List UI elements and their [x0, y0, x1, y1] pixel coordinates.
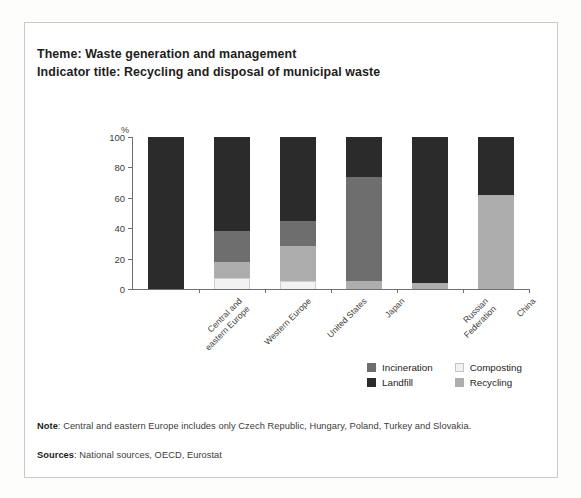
x-axis-tick-mark — [397, 289, 398, 293]
legend-swatch-incineration — [367, 363, 376, 372]
bar-united-states[interactable] — [280, 137, 316, 289]
x-axis-tick-mark — [199, 289, 200, 293]
y-axis-tick-mark — [128, 198, 132, 199]
legend-label: Incineration — [382, 362, 433, 373]
bar-segment-composting — [280, 281, 316, 289]
bar-western-europe[interactable] — [214, 137, 250, 289]
sources-footnote: Sources: National sources, OECD, Eurosta… — [37, 449, 537, 462]
legend-label: Landfill — [382, 377, 413, 388]
bar-segment-landfill — [148, 137, 184, 289]
x-axis-label: United States — [325, 296, 369, 340]
bar-segment-landfill — [346, 137, 382, 177]
legend-item-landfill[interactable]: Landfill — [367, 377, 433, 388]
y-axis-tick-mark — [128, 259, 132, 260]
chart-legend: IncinerationCompostingLandfillRecycling — [367, 362, 522, 388]
content-card: Theme: Waste generation and management I… — [24, 22, 558, 478]
x-axis-tick-mark — [265, 289, 266, 293]
bar-segment-landfill — [280, 137, 316, 221]
note-text: : Central and eastern Europe includes on… — [58, 421, 471, 431]
x-axis-label: Central andeastern Europe — [195, 296, 251, 352]
sources-label: Sources — [37, 450, 74, 460]
x-axis-label-line: Western Europe — [262, 296, 313, 347]
x-axis-tick-mark — [529, 289, 530, 293]
x-axis-label-line: United States — [325, 296, 369, 340]
bar-segment-landfill — [478, 137, 514, 195]
y-axis-tick-mark — [128, 228, 132, 229]
bar-russian-federation[interactable] — [412, 137, 448, 289]
bar-segment-incineration — [346, 177, 382, 282]
bar-segment-recycling — [412, 283, 448, 289]
legend-item-recycling[interactable]: Recycling — [455, 377, 522, 388]
bar-central-and-eastern-europe[interactable] — [148, 137, 184, 289]
bar-china[interactable] — [478, 137, 514, 289]
x-axis-label: Western Europe — [262, 296, 313, 347]
bar-segment-recycling — [478, 195, 514, 289]
bar-segment-composting — [214, 278, 250, 289]
legend-item-composting[interactable]: Composting — [455, 362, 522, 373]
x-axis-label: RussianFederation — [454, 296, 498, 340]
legend-item-incineration[interactable]: Incineration — [367, 362, 433, 373]
stacked-bar-chart: % 020406080100 Central andeastern Europe… — [37, 119, 545, 369]
plot-area — [133, 137, 529, 289]
x-axis-label-line: Japan — [383, 296, 407, 320]
x-axis-label-line: China — [515, 296, 538, 319]
x-axis-tick-mark — [463, 289, 464, 293]
bar-segment-incineration — [280, 221, 316, 247]
bar-segment-incineration — [214, 231, 250, 261]
legend-swatch-composting — [455, 363, 464, 372]
legend-label: Composting — [470, 362, 522, 373]
bar-segment-recycling — [280, 246, 316, 281]
legend-swatch-landfill — [367, 378, 376, 387]
note-label: Note — [37, 421, 58, 431]
legend-label: Recycling — [470, 377, 512, 388]
x-axis-tick-mark — [331, 289, 332, 293]
bar-segment-landfill — [412, 137, 448, 283]
bar-segment-recycling — [214, 262, 250, 279]
bar-segment-landfill — [214, 137, 250, 231]
bar-segment-recycling — [346, 281, 382, 289]
theme-title: Theme: Waste generation and management — [37, 45, 537, 63]
sources-text: : National sources, OECD, Eurostat — [74, 450, 222, 460]
bar-japan[interactable] — [346, 137, 382, 289]
x-axis-label: Japan — [383, 296, 407, 320]
x-axis-label: China — [515, 296, 538, 319]
note-footnote: Note: Central and eastern Europe include… — [37, 420, 537, 433]
y-axis-tick-mark — [128, 137, 132, 138]
title-block: Theme: Waste generation and management I… — [37, 45, 537, 81]
y-axis-tick-mark — [128, 167, 132, 168]
legend-swatch-recycling — [455, 378, 464, 387]
y-axis-tick-mark — [128, 289, 132, 290]
indicator-title: Indicator title: Recycling and disposal … — [37, 63, 537, 81]
page-root: Theme: Waste generation and management I… — [0, 0, 581, 498]
